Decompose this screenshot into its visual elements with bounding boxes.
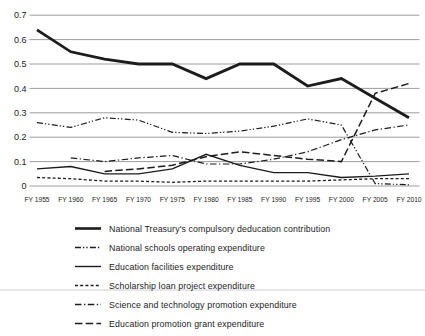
series-line xyxy=(37,178,409,183)
y-axis-tick-label: 0 xyxy=(21,181,26,191)
x-axis-tick-label: FY 1965 xyxy=(92,196,117,203)
legend-line-sample xyxy=(75,280,101,291)
legend-label: Education facilities expenditure xyxy=(109,262,233,272)
x-axis-tick-label: FY 2005 xyxy=(363,196,388,203)
legend-line-sample xyxy=(75,318,101,329)
legend-line-sample xyxy=(75,261,101,272)
x-axis-tick-label: FY 1960 xyxy=(58,196,83,203)
legend-item: National Treasury's compulsory deducatio… xyxy=(75,219,330,238)
series-line xyxy=(37,118,409,185)
y-axis-tick-label: 0.1 xyxy=(14,157,27,167)
x-axis-tick-label: FY 1990 xyxy=(261,196,286,203)
x-axis-tick-label: FY 1980 xyxy=(194,196,219,203)
x-axis-tick-label: FY 1975 xyxy=(160,196,185,203)
x-axis-tick-label: FY 1955 xyxy=(24,196,49,203)
legend-item: National schools operating expenditure xyxy=(75,238,330,257)
legend-label: National Treasury's compulsory deducatio… xyxy=(109,224,330,234)
x-axis-tick-label: FY 2000 xyxy=(329,196,354,203)
series-line xyxy=(71,125,409,164)
series-line xyxy=(37,30,409,118)
chart-plot-area: 0.70.60.50.40.30.20.10FY 1955FY 1960FY 1… xyxy=(0,0,425,212)
legend-label: National schools operating expenditure xyxy=(109,243,265,253)
legend-line-sample xyxy=(75,242,101,253)
legend-label: Science and technology promotion expendi… xyxy=(109,300,297,310)
y-axis-tick-label: 0.5 xyxy=(14,59,27,69)
x-axis-tick-label: FY 1995 xyxy=(295,196,320,203)
legend-label: Education promotion grant expenditure xyxy=(109,319,264,329)
legend-line-sample xyxy=(75,299,101,310)
line-chart-figure: 0.70.60.50.40.30.20.10FY 1955FY 1960FY 1… xyxy=(0,0,425,336)
y-axis-tick-label: 0.4 xyxy=(14,84,27,94)
x-axis-tick-label: FY 2010 xyxy=(396,196,421,203)
y-axis-tick-label: 0.6 xyxy=(14,35,27,45)
series-line xyxy=(37,154,409,177)
legend-label: Scholarship loan project expenditure xyxy=(109,281,255,291)
legend-item: Scholarship loan project expenditure xyxy=(75,276,330,295)
y-axis-tick-label: 0.2 xyxy=(14,132,27,142)
legend-item: Science and technology promotion expendi… xyxy=(75,295,330,314)
x-axis-tick-label: FY 1985 xyxy=(227,196,252,203)
legend-item: Education promotion grant expenditure xyxy=(75,314,330,333)
x-axis-tick-label: FY 1970 xyxy=(126,196,151,203)
chart-legend: National Treasury's compulsory deducatio… xyxy=(75,219,330,333)
y-axis-tick-label: 0.7 xyxy=(14,10,27,20)
legend-item: Education facilities expenditure xyxy=(75,257,330,276)
legend-line-sample xyxy=(75,223,101,234)
y-axis-tick-label: 0.3 xyxy=(14,108,27,118)
series-line xyxy=(105,84,409,172)
